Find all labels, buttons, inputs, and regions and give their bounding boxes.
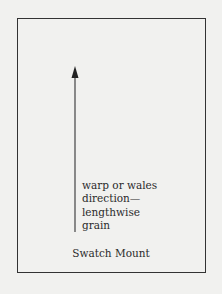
- grain-direction-label: warp or wales direction— lengthwise grai…: [82, 179, 157, 232]
- label-line: warp or wales: [82, 179, 157, 192]
- label-line: lengthwise: [82, 206, 157, 219]
- diagram-caption: Swatch Mount: [0, 247, 222, 259]
- label-line: grain: [82, 219, 157, 232]
- label-line: direction—: [82, 192, 157, 205]
